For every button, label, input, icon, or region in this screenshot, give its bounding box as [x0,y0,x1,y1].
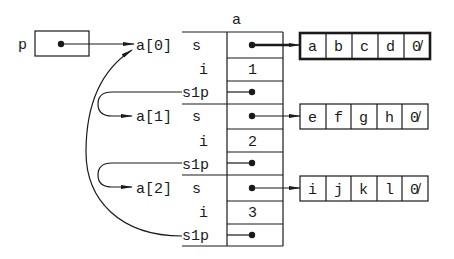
struct-array-diagram: p a a[0] s i s1p 1 a [0,0,454,259]
field-name-s: s [192,38,201,55]
char-cell: d [386,39,395,56]
null-terminator-cell: 0̸ [410,110,422,127]
char-cell: l [385,182,394,199]
char-cell: g [359,110,368,127]
pointer-label: p [18,37,27,54]
char-cell: c [360,39,369,56]
field-name-i: i [199,205,208,222]
element-label: a[1] [136,109,172,126]
char-cell: i [308,182,317,199]
field-name-s1p: s1p [182,85,209,102]
string-box-0: a b c d 0̸ [300,33,430,59]
element-label: a[2] [136,181,172,198]
string-box-1: e f g h 0̸ [300,104,428,129]
null-terminator-cell: 0̸ [410,182,422,199]
field-name-s: s [192,181,201,198]
char-cell: f [334,110,343,127]
array-table [182,32,283,246]
field-name-s1p: s1p [182,157,209,174]
s1p-arrow-a2-to-a0 [86,50,182,236]
char-cell: a [308,39,317,56]
null-terminator-cell: 0̸ [412,39,424,56]
field-name-s: s [192,109,201,126]
char-cell: k [359,182,368,199]
element-label: a[0] [136,38,172,55]
field-value-i: 1 [248,62,257,79]
string-box-2: i j k l 0̸ [300,176,428,201]
char-cell: b [334,39,343,56]
field-value-i: 2 [248,134,257,151]
char-cell: h [385,110,394,127]
element-a2: a[2] s i s1p 3 [136,181,300,245]
field-name-s1p: s1p [182,228,209,245]
array-name: a [232,12,241,29]
pointer-p: p [18,31,134,56]
field-name-i: i [199,62,208,79]
char-cell: j [334,182,343,199]
char-cell: e [308,110,317,127]
field-name-i: i [199,134,208,151]
field-value-i: 3 [248,205,257,222]
element-a1: a[1] s i s1p 2 [136,109,300,174]
